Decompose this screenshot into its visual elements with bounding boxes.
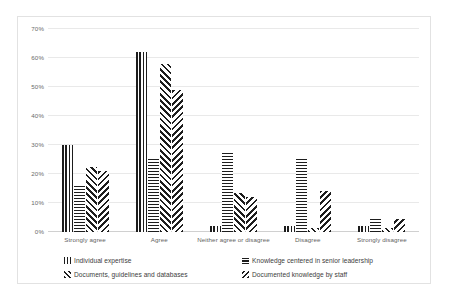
legend-item[interactable]: Knowledge centered in senior leadership — [242, 253, 414, 267]
legend-label: Individual expertise — [74, 257, 131, 264]
y-axis-tick-label: 20% — [31, 170, 44, 177]
bar — [382, 228, 393, 232]
chart-legend: Individual expertiseKnowledge centered i… — [64, 253, 414, 281]
bar — [308, 228, 319, 232]
legend-label: Documents, guidelines and databases — [74, 271, 188, 278]
legend-item[interactable]: Documented knowledge by staff — [242, 267, 414, 281]
bar — [358, 226, 369, 232]
y-axis-tick-label: 40% — [31, 112, 44, 119]
bar-group — [196, 29, 270, 232]
x-axis-category-label: Agree — [122, 236, 196, 243]
bar — [246, 197, 257, 232]
legend-item[interactable]: Documents, guidelines and databases — [64, 267, 242, 281]
bar-group — [345, 29, 419, 232]
bar — [370, 218, 381, 233]
legend-swatch-icon — [64, 271, 71, 278]
x-axis-category-label: Disagree — [271, 236, 345, 243]
legend-item[interactable]: Individual expertise — [64, 253, 242, 267]
legend-label: Knowledge centered in senior leadership — [252, 257, 373, 264]
legend-swatch-icon — [64, 257, 71, 264]
bar — [320, 191, 331, 232]
bar — [98, 171, 109, 232]
bar — [74, 186, 85, 232]
legend-swatch-icon — [242, 271, 249, 278]
bar — [284, 226, 295, 232]
chart-card: 70%60%50%40%30%20%10%0% Strongly agreeAg… — [17, 16, 431, 284]
bar — [394, 219, 405, 232]
y-axis-tick-label: 70% — [31, 25, 44, 32]
bar-group — [122, 29, 196, 232]
y-axis-tick-label: 10% — [31, 199, 44, 206]
y-axis-tick-label: 30% — [31, 141, 44, 148]
bar — [296, 158, 307, 232]
y-axis-tick-label: 0% — [35, 228, 44, 235]
bar — [86, 167, 97, 232]
bar — [234, 193, 245, 232]
x-axis-category-label: Strongly agree — [48, 236, 122, 243]
x-axis-labels: Strongly agreeAgreeNeither agree or disa… — [48, 236, 419, 243]
plot-area: 70%60%50%40%30%20%10%0% — [48, 29, 419, 232]
bar-group — [271, 29, 345, 232]
bar — [136, 52, 147, 232]
bar — [222, 151, 233, 232]
bar — [210, 226, 221, 232]
legend-swatch-icon — [242, 257, 249, 264]
bar-groups — [48, 29, 419, 232]
y-axis-tick-label: 50% — [31, 83, 44, 90]
y-axis-tick-label: 60% — [31, 54, 44, 61]
legend-label: Documented knowledge by staff — [252, 271, 347, 278]
x-axis-category-label: Strongly disagree — [345, 236, 419, 243]
bar — [148, 158, 159, 232]
bar — [62, 145, 73, 232]
bar — [172, 90, 183, 232]
bar — [160, 64, 171, 232]
bar-group — [48, 29, 122, 232]
x-axis-category-label: Neither agree or disagree — [196, 236, 270, 243]
